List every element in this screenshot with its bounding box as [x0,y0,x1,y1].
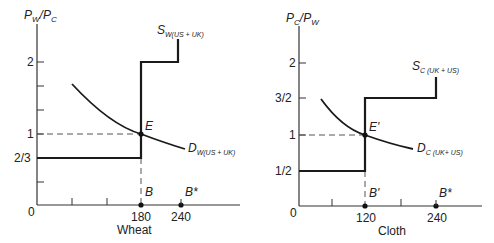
wheat-point-b-label: B [145,185,153,199]
cloth-y-tick-1: 1 [289,128,296,142]
cloth-supply-label: SC (UK + US) [412,59,459,75]
wheat-x-ticks [72,198,107,205]
cloth-y-tick-3-2: 3/2 [275,91,292,105]
wheat-x-tick-180: 180 [131,210,151,224]
wheat-x-tick-240: 240 [171,210,191,224]
trade-equilibrium-diagram: PW/PC 2 1 2/3 0 180 240 Wheat B B* E SW(… [0,0,494,243]
cloth-point-bprime [362,203,367,208]
wheat-panel: PW/PC 2 1 2/3 0 180 240 Wheat B B* E SW(… [14,8,240,237]
cloth-panel: PC/PW 2 3/2 1 1/2 0 120 240 Cloth B' B* … [275,11,482,238]
cloth-x-tick-120: 120 [356,211,376,225]
cloth-origin-label: 0 [290,206,297,220]
cloth-equilibrium-label: E' [369,120,380,134]
cloth-demand-label: DC (UK+ US) [417,141,463,157]
cloth-y-tick-1-2: 1/2 [275,164,292,178]
wheat-demand-label: DW(US + UK) [188,141,235,157]
wheat-point-bstar-label: B* [185,185,198,199]
wheat-y-tick-2: 2 [27,55,34,69]
wheat-point-b [138,202,143,207]
cloth-y-axis-label: PC/PW [286,11,320,27]
cloth-point-bstar-label: B* [439,186,452,200]
cloth-y-ticks [299,63,306,171]
cloth-x-axis-label: Cloth [378,224,406,238]
wheat-x-axis-label: Wheat [117,223,152,237]
cloth-equilibrium-point [362,132,367,137]
wheat-origin-label: 0 [28,205,35,219]
wheat-supply-label: SW(US + UK) [157,23,204,39]
wheat-equilibrium-point [138,131,143,136]
wheat-y-ticks [37,62,44,182]
wheat-y-tick-1: 1 [27,127,34,141]
cloth-demand-curve [321,99,413,149]
wheat-equilibrium-label: E [145,119,154,133]
wheat-y-tick-2-3: 2/3 [14,151,31,165]
cloth-x-tick-240: 240 [427,211,447,225]
cloth-y-tick-2: 2 [289,56,296,70]
wheat-y-axis-label: PW/PC [24,8,57,24]
cloth-supply-curve [299,77,436,171]
cloth-point-bprime-label: B' [369,186,380,200]
wheat-demand-curve [72,84,185,149]
